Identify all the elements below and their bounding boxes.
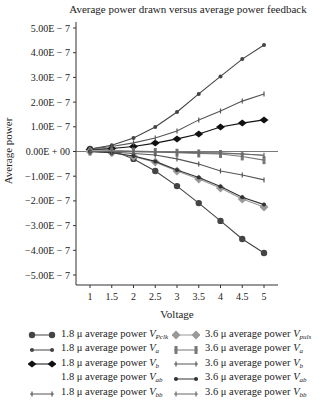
legend-swatch-icon	[28, 359, 56, 369]
line-chart: Average power drawn versus average power…	[0, 0, 326, 330]
legend-column-left: 1.8 μ average power VPclk1.8 μ average p…	[28, 328, 168, 401]
legend-swatch-icon	[172, 389, 200, 399]
x-tick-label: 1	[88, 291, 93, 302]
x-tick-label: 2.5	[149, 291, 162, 302]
legend-item: 3.6 μ average power Vbb	[172, 386, 311, 401]
series-layer	[86, 43, 269, 256]
series-line	[88, 43, 266, 151]
x-tick-label: 4	[218, 291, 223, 302]
x-tick-label: 3.5	[193, 291, 206, 302]
y-tick-label: −4.00E − 7	[25, 245, 70, 256]
y-tick-label: 4.00E − 7	[31, 47, 70, 58]
legend-swatch-icon	[28, 389, 56, 399]
x-tick-label: 4.5	[236, 291, 249, 302]
x-axis-ticks: 11.522.533.544.55	[88, 285, 267, 302]
y-tick-label: −2.00E − 7	[25, 195, 70, 206]
legend-swatch-icon	[172, 359, 200, 369]
y-tick-label: 5.00E − 7	[31, 23, 70, 34]
x-axis-label: Voltage	[160, 308, 194, 320]
x-tick-label: 1.5	[106, 291, 119, 302]
x-tick-label: 5	[262, 291, 267, 302]
legend-swatch-icon	[172, 345, 200, 355]
y-axis-label: Average power	[2, 117, 14, 184]
y-tick-label: −5.00E − 7	[25, 270, 70, 281]
y-tick-label: −3.00E − 7	[25, 220, 70, 231]
legend-label: 1.8 μ average power Vbb	[61, 385, 163, 402]
legend-column-right: 3.6 μ average power Vpuls3.6 μ average p…	[172, 328, 311, 401]
y-axis-ticks: 5.00E − 74.00E − 73.00E − 72.00E − 71.00…	[25, 23, 76, 281]
series-line	[90, 91, 264, 151]
legend-swatch-icon	[172, 330, 200, 340]
legend-item: 1.8 μ average power Vbb	[28, 386, 168, 401]
y-tick-label: 2.00E − 7	[31, 97, 70, 108]
chart-title: Average power drawn versus average power…	[69, 3, 307, 15]
legend-swatch-icon	[28, 345, 56, 355]
x-tick-label: 3	[175, 291, 180, 302]
legend-swatch-icon	[28, 330, 56, 340]
y-tick-label: 3.00E − 7	[31, 72, 70, 83]
y-tick-label: −1.00E − 7	[25, 171, 70, 182]
legend-swatch-icon	[172, 374, 200, 384]
legend-swatch-icon	[28, 374, 56, 384]
legend-label: 3.6 μ average power Vbb	[205, 385, 307, 402]
y-tick-label: 0.00E + 00	[26, 146, 70, 157]
x-tick-label: 2	[131, 291, 136, 302]
y-tick-label: 1.00E − 7	[31, 121, 70, 132]
